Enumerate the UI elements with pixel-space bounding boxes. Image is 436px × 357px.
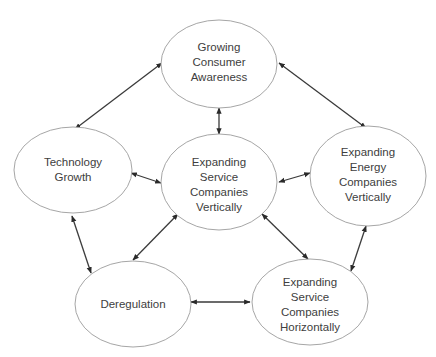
node-deregulation: Deregulation <box>75 261 191 347</box>
node-label-line: Awareness <box>191 71 248 83</box>
edge-consumer-energy <box>279 63 366 128</box>
node-label-line: Service <box>200 171 238 183</box>
node-label-line: Companies <box>281 306 339 318</box>
node-label-line: Expanding <box>341 146 395 158</box>
node-label-line: Vertically <box>345 191 391 203</box>
node-expanding-energy-companies-vertically: Expanding Energy Companies Vertically <box>310 126 426 226</box>
node-label-line: Technology <box>44 156 102 168</box>
node-label-line: Service <box>291 291 329 303</box>
diagram-canvas: Growing Consumer Awareness Technology Gr… <box>0 0 436 357</box>
edge-energy-horiz <box>351 226 366 271</box>
edge-tech-dereg <box>72 216 91 273</box>
edge-service-vert-horiz <box>262 214 308 259</box>
node-label-line: Growing <box>198 41 241 53</box>
node-label-line: Companies <box>190 186 248 198</box>
node-label-line: Energy <box>350 161 387 173</box>
node-label-line: Vertically <box>196 201 242 213</box>
edge-tech-service-vert <box>131 173 161 183</box>
node-growing-consumer-awareness: Growing Consumer Awareness <box>161 20 277 108</box>
node-label-line: Expanding <box>192 156 246 168</box>
node-label-line: Expanding <box>283 276 337 288</box>
node-expanding-service-companies-vertically: Expanding Service Companies Vertically <box>161 134 277 230</box>
node-label-line: Deregulation <box>100 298 165 310</box>
node-label-line: Consumer <box>192 56 245 68</box>
node-technology-growth: Technology Growth <box>14 127 132 213</box>
edge-service-vert-energy <box>279 173 310 182</box>
edge-service-vert-dereg <box>133 214 178 260</box>
node-label-line: Companies <box>339 176 397 188</box>
node-label-line: Horizontally <box>280 321 340 333</box>
edge-consumer-tech <box>75 63 162 129</box>
node-expanding-service-companies-horizontally: Expanding Service Companies Horizontally <box>252 259 368 345</box>
node-label-line: Growth <box>54 171 91 183</box>
